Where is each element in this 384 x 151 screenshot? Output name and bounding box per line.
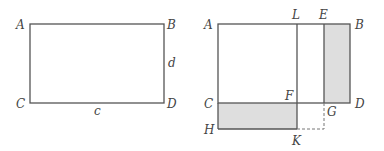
vertex-label-f: F	[284, 89, 294, 103]
right-decomposition-figure: A L E B C F G D H K	[203, 8, 365, 148]
rectangle-abdc	[30, 24, 164, 103]
vertex-label-l: L	[291, 8, 300, 22]
side-label-d: d	[168, 56, 176, 70]
vertex-label-a: A	[15, 18, 25, 32]
vertex-label-e: E	[318, 8, 328, 22]
vertex-label-b: B	[354, 18, 364, 32]
vertex-label-c: C	[16, 97, 25, 111]
vertex-label-b: B	[166, 18, 176, 32]
vertex-label-g: G	[327, 105, 337, 119]
left-rectangle-figure: A B C D d c	[15, 18, 177, 118]
side-label-c: c	[94, 104, 101, 118]
shaded-region-cfkh	[218, 103, 297, 129]
diagram-canvas: A B C D d c A L E B C F G D H K	[0, 0, 384, 151]
shaded-region-ebdg	[324, 24, 350, 103]
vertex-label-d: D	[166, 97, 177, 111]
vertex-label-d: D	[354, 97, 365, 111]
vertex-label-c: C	[204, 97, 213, 111]
vertex-label-h: H	[203, 123, 215, 137]
vertex-label-a: A	[203, 18, 213, 32]
vertex-label-k: K	[291, 134, 302, 148]
